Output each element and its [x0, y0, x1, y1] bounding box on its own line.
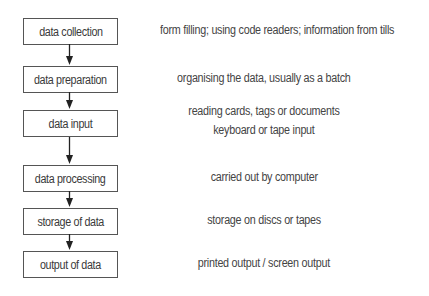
- step-storage-of-data: storage of data: [23, 208, 118, 235]
- arrow-down-icon: [64, 234, 75, 251]
- step-data-collection: data collection: [23, 18, 118, 45]
- step-description-line-2: keyboard or tape input: [114, 123, 414, 137]
- step-label: output of data: [40, 258, 101, 272]
- step-description: form filling; using code readers; inform…: [122, 23, 429, 37]
- step-description: carried out by computer: [114, 170, 414, 184]
- arrow-down-icon: [64, 92, 75, 110]
- arrow-down-icon: [64, 137, 75, 165]
- step-label: storage of data: [37, 215, 104, 229]
- step-label: data processing: [35, 172, 106, 186]
- step-data-input: data input: [23, 110, 118, 137]
- step-description: organising the data, usually as a batch: [114, 71, 414, 85]
- step-label: data input: [49, 117, 93, 131]
- step-description: printed output / screen output: [114, 256, 414, 270]
- step-data-processing: data processing: [23, 165, 118, 192]
- step-description: reading cards, tags or documents: [114, 104, 414, 118]
- arrow-down-icon: [64, 44, 75, 66]
- step-output-of-data: output of data: [23, 251, 118, 278]
- step-label: data collection: [39, 25, 103, 39]
- step-label: data preparation: [34, 73, 107, 87]
- arrow-down-icon: [64, 191, 75, 208]
- step-description: storage on discs or tapes: [114, 213, 414, 227]
- step-data-preparation: data preparation: [23, 66, 118, 93]
